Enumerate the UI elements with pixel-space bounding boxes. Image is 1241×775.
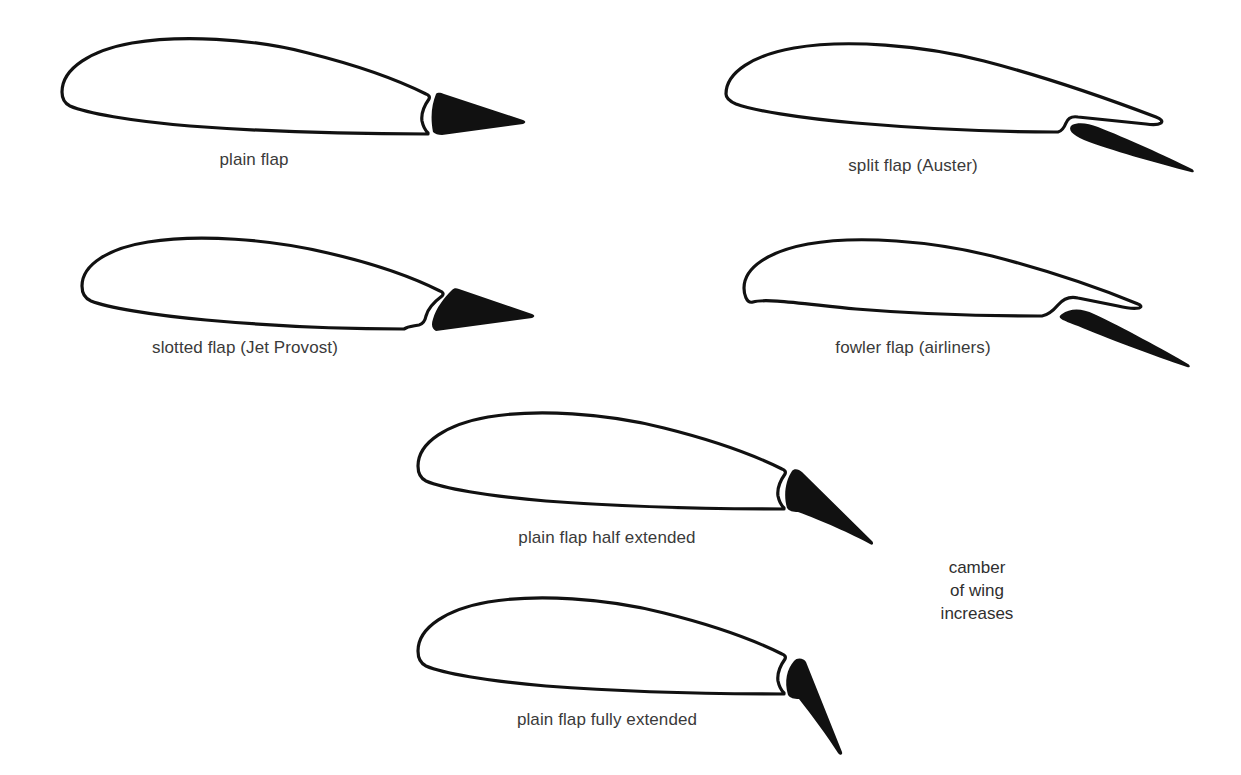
- caption-slotted-flap: slotted flap (Jet Provost): [152, 338, 338, 358]
- plain-flap-full-airfoil: [400, 585, 880, 730]
- wing-body-outline: [418, 598, 785, 694]
- wing-body-outline: [726, 44, 1162, 132]
- wing-body-outline: [62, 39, 429, 134]
- flap-surface: [432, 288, 534, 331]
- flap-surface: [786, 658, 842, 754]
- camber-annotation: camber of wing increases: [941, 556, 1014, 625]
- figure-plain-flap: [40, 20, 540, 150]
- flap-surface: [1070, 123, 1194, 172]
- plain-flap-airfoil: [40, 20, 540, 150]
- wing-body-outline: [418, 413, 785, 509]
- split-flap-airfoil: [706, 28, 1206, 163]
- plain-flap-half-airfoil: [400, 400, 880, 535]
- caption-plain-flap: plain flap: [219, 150, 288, 170]
- flap-types-diagram: plain flap split flap (Auster) slotted f…: [0, 0, 1241, 775]
- figure-fowler-flap: [726, 230, 1226, 355]
- figure-split-flap: [706, 28, 1206, 163]
- slotted-flap-airfoil: [62, 228, 562, 348]
- wing-body-outline: [82, 238, 443, 329]
- camber-annotation-line-2: of wing: [941, 579, 1014, 602]
- caption-split-flap: split flap (Auster): [848, 156, 977, 176]
- wing-body-outline: [744, 240, 1141, 316]
- camber-annotation-line-1: camber: [941, 556, 1014, 579]
- figure-plain-flap-half: [400, 400, 880, 535]
- camber-annotation-line-3: increases: [941, 602, 1014, 625]
- caption-plain-flap-half: plain flap half extended: [518, 528, 695, 548]
- flap-surface: [1060, 310, 1190, 368]
- figure-slotted-flap: [62, 228, 562, 348]
- caption-plain-flap-full: plain flap fully extended: [517, 710, 697, 730]
- flap-surface: [785, 469, 873, 544]
- figure-plain-flap-full: [400, 585, 880, 730]
- fowler-flap-airfoil: [726, 230, 1226, 355]
- caption-fowler-flap: fowler flap (airliners): [835, 338, 990, 358]
- flap-surface: [432, 93, 526, 135]
